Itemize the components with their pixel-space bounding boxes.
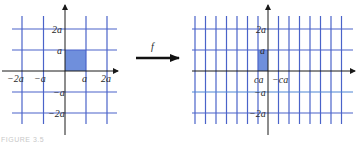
left-x-label-neg-2a: −2a [7,73,24,84]
right-y-label-neg-2a: −2a [249,108,266,119]
left-y-label-neg-2a: −2a [48,108,65,119]
figure-canvas: 2a a −a −2a −2a −a a 2a f [0,0,357,143]
left-y-label-2a: 2a [52,24,62,35]
left-x-label-a: a [82,73,87,84]
right-plot: 2a a −a −2a ca −ca [192,5,355,135]
right-x-label-neg-ca: −ca [272,74,288,85]
map-arrow-group: f [136,41,179,58]
left-y-label-a: a [57,45,62,56]
shaded-unit-square [65,50,86,71]
right-y-label-a: a [260,45,265,56]
left-plot: 2a a −a −2a −2a −a a 2a [2,5,118,135]
right-x-label-ca: ca [254,74,263,85]
map-label-f: f [151,41,155,52]
left-y-label-neg-a: −a [53,87,65,98]
right-y-label-2a: 2a [256,24,266,35]
right-y-label-neg-a: −a [254,87,266,98]
left-x-label-2a: 2a [101,73,111,84]
left-x-label-neg-a: −a [34,73,46,84]
figure-caption: FIGURE 3.5 [1,136,44,143]
